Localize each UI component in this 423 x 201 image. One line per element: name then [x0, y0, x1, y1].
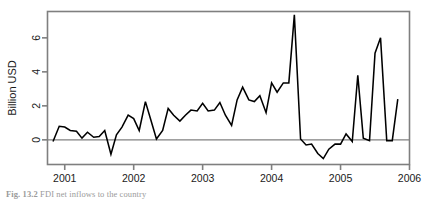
y-tick-label: 4: [30, 69, 42, 75]
x-tick-label: 2006: [398, 172, 422, 184]
caption-label: Fig. 13.2: [6, 189, 38, 199]
y-tick-label: 0: [30, 137, 42, 143]
figure-container: 0246 200120022003200420052006 Billion US…: [0, 0, 423, 201]
x-tick-label: 2003: [191, 172, 215, 184]
figure-caption: Fig. 13.2 FDI net inflows to the country: [6, 189, 146, 199]
caption-text: FDI net inflows to the country: [40, 189, 146, 199]
x-tick-label: 2004: [260, 172, 284, 184]
x-tick-label: 2005: [329, 172, 353, 184]
time-series-chart: 0246 200120022003200420052006 Billion US…: [0, 0, 423, 201]
y-tick-label: 6: [30, 35, 42, 41]
y-axis-title: Billion USD: [6, 60, 18, 116]
x-tick-label: 2001: [53, 172, 77, 184]
x-tick-label: 2002: [122, 172, 146, 184]
y-tick-label: 2: [30, 103, 42, 109]
